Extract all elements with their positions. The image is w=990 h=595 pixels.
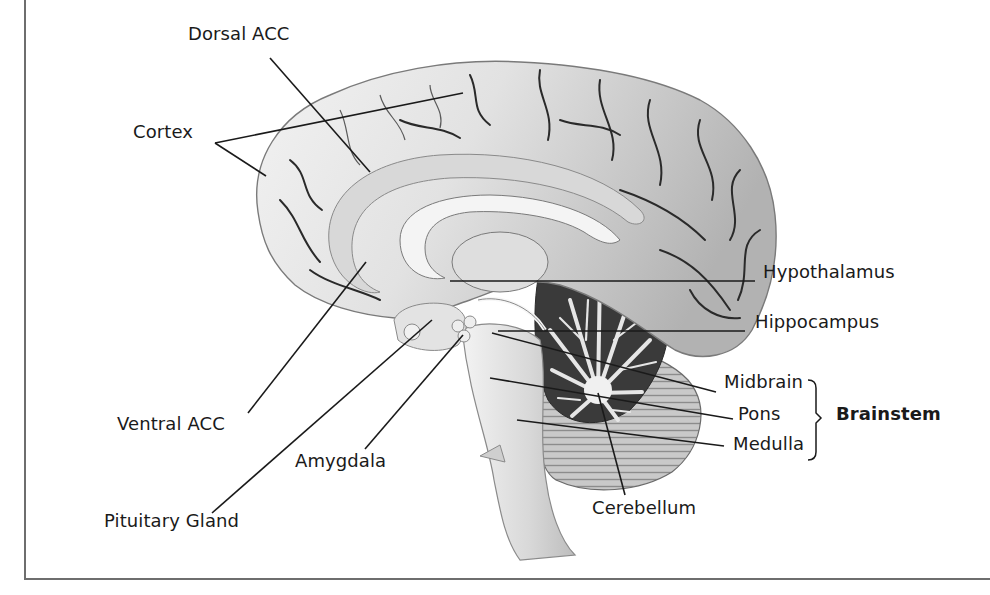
label-hypothalamus: Hypothalamus <box>763 263 895 281</box>
pituitary-line <box>212 320 432 513</box>
label-dorsal-acc: Dorsal ACC <box>188 25 290 43</box>
amygdala-line <box>365 335 463 449</box>
label-pituitary-gland: Pituitary Gland <box>104 512 239 530</box>
label-medulla: Medulla <box>733 435 804 453</box>
label-pons: Pons <box>738 405 780 423</box>
label-brainstem: Brainstem <box>836 405 941 423</box>
cortex-line-lower <box>215 143 266 176</box>
figure-frame: Dorsal ACC Cortex Hypothalamus Hippocamp… <box>0 0 990 595</box>
brain-illustration <box>0 0 990 595</box>
brainstem-bracket-icon <box>808 380 821 460</box>
label-midbrain: Midbrain <box>724 373 803 391</box>
label-cerebellum: Cerebellum <box>592 499 696 517</box>
label-hippocampus: Hippocampus <box>755 313 879 331</box>
label-ventral-acc: Ventral ACC <box>117 415 225 433</box>
label-cortex: Cortex <box>133 123 193 141</box>
cortex-icon <box>257 61 776 356</box>
label-amygdala: Amygdala <box>295 452 386 470</box>
